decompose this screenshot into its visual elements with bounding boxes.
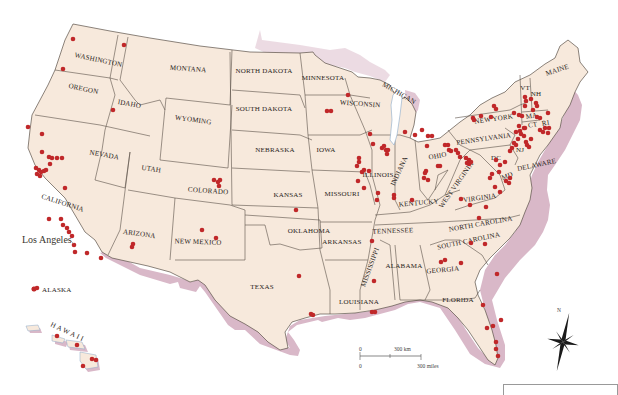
- location-marker: [483, 242, 488, 247]
- location-marker: [493, 185, 498, 190]
- location-marker: [75, 343, 80, 348]
- state-label-north-dakota: NORTH DAKOTA: [236, 67, 293, 75]
- scale-mi-label: 300 miles: [417, 363, 439, 369]
- location-marker: [547, 126, 552, 131]
- location-marker: [508, 149, 513, 154]
- location-marker: [111, 108, 116, 113]
- location-marker: [376, 191, 381, 196]
- legend-box: [503, 384, 618, 395]
- location-marker: [469, 241, 474, 246]
- state-label-arkansas: ARKANSAS: [322, 238, 361, 246]
- location-marker: [73, 250, 78, 255]
- location-marker: [425, 144, 430, 149]
- location-marker: [368, 132, 373, 137]
- location-marker: [357, 156, 362, 161]
- location-marker: [325, 109, 330, 114]
- state-label-alabama: ALABAMA: [386, 262, 423, 270]
- location-marker: [403, 130, 408, 135]
- location-marker: [422, 176, 427, 181]
- location-marker: [484, 205, 489, 210]
- location-marker: [311, 313, 316, 318]
- location-marker: [439, 260, 444, 265]
- location-marker: [94, 358, 99, 363]
- location-marker: [357, 160, 362, 165]
- location-marker: [491, 324, 496, 329]
- location-marker: [65, 226, 70, 231]
- compass-north-label: N: [557, 307, 561, 313]
- location-marker: [497, 170, 502, 175]
- state-label-kansas: KANSAS: [273, 191, 302, 199]
- location-marker: [496, 354, 501, 359]
- location-marker: [329, 109, 334, 114]
- location-marker: [212, 178, 217, 183]
- location-marker: [488, 176, 493, 181]
- location-marker: [479, 114, 484, 119]
- location-marker: [531, 108, 536, 113]
- state-label-florida: FLORIDA: [442, 296, 474, 304]
- location-marker: [382, 144, 387, 149]
- location-marker: [26, 125, 31, 130]
- location-marker: [485, 326, 490, 331]
- location-marker: [413, 133, 418, 138]
- location-marker: [38, 174, 43, 179]
- location-marker: [420, 128, 425, 133]
- location-marker: [494, 340, 499, 345]
- location-marker: [514, 143, 519, 148]
- state-label-nj: NJ: [516, 146, 524, 154]
- location-marker: [61, 223, 66, 228]
- location-marker: [520, 114, 525, 119]
- location-marker: [385, 152, 390, 157]
- scale-bar: 0 300 km 0 300 miles: [359, 346, 439, 369]
- location-marker: [516, 137, 521, 142]
- location-marker: [546, 131, 551, 136]
- location-marker: [214, 236, 219, 241]
- location-marker: [55, 156, 60, 161]
- location-marker: [494, 107, 499, 112]
- location-marker: [458, 155, 463, 160]
- location-marker: [494, 347, 499, 352]
- location-marker: [59, 217, 64, 222]
- location-marker: [507, 181, 512, 186]
- location-marker: [423, 171, 428, 176]
- location-marker: [499, 318, 504, 323]
- location-marker: [535, 104, 540, 109]
- location-marker: [490, 172, 495, 177]
- location-marker: [373, 310, 378, 315]
- location-marker: [85, 251, 90, 256]
- location-marker: [294, 208, 299, 213]
- compass-rose-icon: [541, 309, 585, 374]
- location-marker: [47, 217, 52, 222]
- location-marker: [426, 134, 431, 139]
- location-marker: [55, 334, 60, 339]
- location-marker: [454, 148, 459, 153]
- state-label-tennessee: TENNESSEE: [372, 226, 413, 235]
- location-marker: [523, 104, 528, 109]
- location-marker: [546, 111, 551, 116]
- location-marker: [72, 243, 77, 248]
- location-marker: [438, 164, 443, 169]
- location-marker: [362, 186, 367, 191]
- location-marker: [498, 190, 503, 195]
- location-marker: [50, 156, 55, 161]
- location-marker: [392, 196, 397, 201]
- location-marker: [372, 279, 377, 284]
- location-marker: [130, 245, 135, 250]
- state-label-vt: VT: [520, 84, 530, 92]
- location-marker: [503, 160, 508, 165]
- location-marker: [469, 160, 474, 165]
- location-marker: [446, 143, 451, 148]
- location-marker: [543, 126, 548, 131]
- location-marker: [477, 216, 482, 221]
- location-marker: [430, 134, 435, 139]
- state-label-texas: TEXAS: [250, 283, 274, 291]
- location-marker: [495, 272, 500, 277]
- location-marker: [371, 142, 376, 147]
- location-marker: [498, 163, 503, 168]
- location-marker: [386, 148, 391, 153]
- location-marker: [216, 180, 221, 185]
- location-marker: [370, 239, 375, 244]
- location-marker: [40, 132, 45, 137]
- state-label-missouri: MISSOURI: [324, 190, 360, 198]
- location-marker: [63, 186, 68, 191]
